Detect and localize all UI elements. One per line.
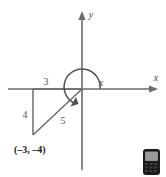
y-axis-label: y xyxy=(88,9,94,20)
right-triangle xyxy=(33,89,82,135)
point-coordinate-label: (–3, –4) xyxy=(14,144,46,156)
label-horizontal-leg: 3 xyxy=(44,76,49,87)
angle-label-x: x xyxy=(98,77,104,88)
label-vertical-leg: 4 xyxy=(23,109,28,120)
figure-container: 3 4 5 x x y (–3, –4) xyxy=(0,0,166,177)
graphing-calculator-icon[interactable] xyxy=(140,148,164,176)
x-axis-arrowhead xyxy=(149,85,158,92)
x-axis xyxy=(8,85,158,92)
label-hypotenuse: 5 xyxy=(61,115,66,126)
y-axis-arrowhead xyxy=(78,11,85,20)
triangle-hypotenuse xyxy=(33,89,82,135)
x-axis-label: x xyxy=(153,72,159,83)
